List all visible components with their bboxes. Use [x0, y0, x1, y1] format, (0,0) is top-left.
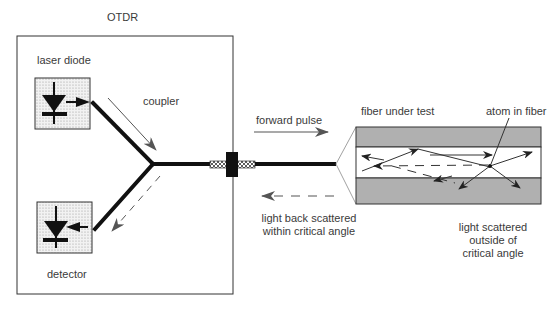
coupler-label: coupler [143, 95, 179, 108]
otdr-diagram [0, 0, 554, 310]
outside-label-line2: outside of [445, 234, 541, 247]
detector-icon [37, 202, 92, 253]
fiber-under-test-label: fiber under test [361, 105, 434, 118]
otdr-title: OTDR [107, 11, 138, 24]
laser-diode-icon [35, 78, 90, 129]
backscatter-label: light back scattered within critical ang… [253, 212, 365, 238]
laser-diode-label: laser diode [37, 54, 91, 67]
outside-critical-angle-label: light scattered outside of critical angl… [445, 221, 541, 260]
atom-in-fiber-label: atom in fiber [486, 105, 547, 118]
atom-dot [488, 164, 492, 168]
coupler [93, 103, 210, 229]
outside-label-line1: light scattered [445, 221, 541, 234]
backscatter-label-line1: light back scattered [253, 212, 365, 225]
backscatter-label-line2: within critical angle [253, 225, 365, 238]
detector-label: detector [47, 268, 87, 281]
forward-pulse-label: forward pulse [256, 114, 322, 127]
outside-label-line3: critical angle [445, 247, 541, 260]
fiber-connector [210, 152, 255, 177]
